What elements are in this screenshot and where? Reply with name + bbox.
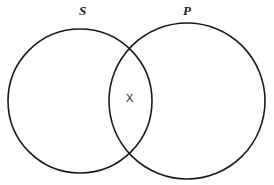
intersection-mark-x: X xyxy=(126,93,133,104)
set-label-p: P xyxy=(183,4,191,17)
venn-diagram-canvas: S P X xyxy=(0,0,274,185)
set-label-s: S xyxy=(79,4,86,17)
venn-diagram-svg xyxy=(0,0,274,185)
